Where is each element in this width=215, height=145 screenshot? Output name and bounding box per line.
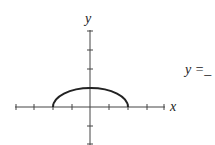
x-axis-label: x [170, 100, 176, 114]
answer-prompt: y =_ [185, 63, 211, 77]
y-axis-label: y [85, 12, 91, 26]
graph-figure: y x y =_ [0, 0, 215, 145]
answer-blank[interactable]: _ [204, 62, 211, 77]
coordinate-plane [0, 0, 215, 145]
